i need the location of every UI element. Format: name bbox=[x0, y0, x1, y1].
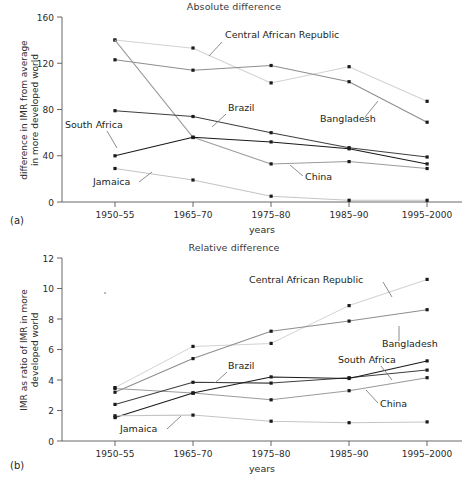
panel-b-y-axis-title-line2: developed world bbox=[30, 313, 40, 388]
panel-a-leader-china bbox=[290, 165, 303, 176]
panel-a-xtick-4: 1985–90 bbox=[330, 210, 369, 220]
stray-speck bbox=[104, 292, 106, 294]
panel-a-ytick-0: 0 bbox=[48, 198, 54, 208]
panel-a-y-axis-title-line1: difference in IMR from average bbox=[19, 40, 29, 180]
panel-a-series-central-african-republic bbox=[113, 38, 429, 103]
panel-a-tag: (a) bbox=[10, 215, 24, 226]
panel-b-ytick-4: 4 bbox=[48, 376, 54, 386]
panel-a-annotation-central-african-republic: Central African Republic bbox=[225, 29, 339, 40]
panel-b-ytick-8: 8 bbox=[48, 315, 54, 325]
panel-b-annotation-central-african-republic: Central African Republic bbox=[249, 274, 363, 285]
panel-a-xtick-1: 1950–55 bbox=[96, 210, 135, 220]
panel-a-plot: 160 120 80 40 0 1950–55 1965–70 1975–80 … bbox=[0, 0, 468, 240]
panel-a-y-ticks bbox=[57, 17, 62, 202]
panel-relative-difference: Relative difference 12 10 8 6 4 2 0 bbox=[0, 240, 468, 478]
panel-b-ytick-2: 2 bbox=[48, 406, 54, 416]
panel-b-x-axis-title: years bbox=[249, 463, 275, 474]
panel-b-plot: 12 10 8 6 4 2 0 1950–55 1965–70 1975–80 … bbox=[0, 240, 468, 478]
panel-a-leader-car bbox=[209, 42, 222, 56]
panel-a-xtick-5: 1995–2000 bbox=[402, 210, 453, 220]
panel-a-series-south-africa bbox=[113, 136, 428, 166]
panel-a-xtick-2: 1965–70 bbox=[174, 210, 213, 220]
panel-a-series-jamaica bbox=[113, 167, 428, 202]
panel-b-xtick-5: 1995–2000 bbox=[402, 449, 453, 459]
panel-absolute-difference: Absolute difference 160 120 80 40 0 bbox=[0, 0, 468, 240]
panel-a-ytick-40: 40 bbox=[43, 151, 55, 161]
panel-a-leader-south-africa bbox=[107, 131, 117, 148]
panel-a-x-axis-title: years bbox=[249, 224, 275, 235]
panel-a-annotation-jamaica: Jamaica bbox=[92, 176, 130, 187]
panel-a-annotation-south-africa: South Africa bbox=[65, 119, 123, 130]
panel-b-annotation-south-africa: South Africa bbox=[338, 354, 396, 365]
panel-a-annotation-china: China bbox=[305, 171, 332, 182]
panel-a-ytick-160: 160 bbox=[37, 13, 54, 23]
panel-b-ytick-10: 10 bbox=[43, 284, 55, 294]
panel-b-tag: (b) bbox=[10, 460, 24, 471]
panel-b-xtick-1: 1950–55 bbox=[96, 449, 135, 459]
panel-b-ytick-12: 12 bbox=[43, 254, 54, 264]
panel-a-y-axis-title-line2: in more developed world bbox=[30, 54, 40, 166]
panel-b-series-south-africa bbox=[113, 359, 428, 419]
panel-b-y-ticks bbox=[57, 258, 62, 441]
panel-b-annotation-china: China bbox=[380, 398, 407, 409]
panel-b-xtick-3: 1975–80 bbox=[252, 449, 291, 459]
panel-b-leader-jamaica bbox=[167, 416, 181, 429]
panel-b-annotation-brazil: Brazil bbox=[228, 360, 255, 371]
panel-a-ytick-80: 80 bbox=[43, 105, 55, 115]
panel-b-leader-south-africa bbox=[381, 366, 392, 380]
panel-b-ytick-0: 0 bbox=[48, 437, 54, 447]
panel-b-series-jamaica bbox=[113, 414, 428, 425]
panel-b-x-ticks bbox=[115, 441, 427, 446]
panel-b-leader-brazil bbox=[215, 372, 227, 383]
panel-b-xtick-4: 1985–90 bbox=[330, 449, 369, 459]
panel-a-x-ticks bbox=[115, 202, 427, 207]
panel-b-series-bangladesh bbox=[113, 308, 428, 394]
panel-b-annotation-jamaica: Jamaica bbox=[119, 423, 157, 434]
panel-a-series-china bbox=[115, 40, 429, 170]
figure-root: Absolute difference 160 120 80 40 0 bbox=[0, 0, 468, 478]
panel-a-series-brazil bbox=[113, 109, 428, 158]
panel-a-xtick-3: 1975–80 bbox=[252, 210, 291, 220]
panel-b-annotation-bangladesh: Bangladesh bbox=[382, 338, 438, 349]
panel-b-xtick-2: 1965–70 bbox=[174, 449, 213, 459]
panel-a-annotation-brazil: Brazil bbox=[228, 102, 255, 113]
panel-b-y-axis-title-line1: IMR as ratio of IMR in more bbox=[19, 289, 29, 411]
panel-b-leader-china bbox=[366, 390, 378, 403]
panel-b-leader-car bbox=[383, 282, 392, 297]
panel-b-ytick-6: 6 bbox=[48, 345, 54, 355]
